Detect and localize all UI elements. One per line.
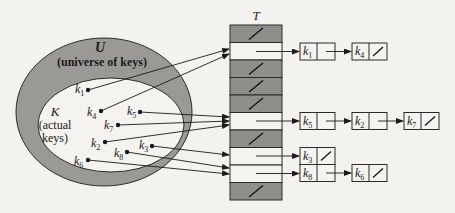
hash-chaining-diagram: U (universe of keys) K (actual keys) T [0, 0, 455, 213]
universe-caption: (universe of keys) [57, 55, 147, 69]
actual-keys-caption-1: (actual [39, 118, 72, 132]
table-label: T [252, 8, 260, 23]
actual-keys-caption-2: keys) [42, 131, 68, 145]
chain-slot8 [300, 165, 387, 182]
actual-keys-label: K [50, 104, 61, 119]
chain-slot1 [300, 43, 387, 60]
universe-label: U [95, 40, 106, 55]
chain-slot5 [300, 113, 439, 130]
